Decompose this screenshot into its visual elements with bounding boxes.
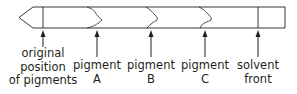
label-solvent-front-line1: solvent	[237, 59, 279, 73]
arrow-origin	[41, 30, 46, 47]
pigment-a-band	[87, 7, 102, 28]
label-pigment-b-line2: B	[127, 73, 175, 87]
label-pigment-c-line2: C	[181, 73, 229, 87]
label-origin-line1: original	[9, 47, 78, 61]
label-pigment-b-line1: pigment	[127, 59, 175, 73]
label-pigment-a-line2: A	[73, 73, 121, 87]
label-pigment-c: pigment C	[181, 59, 229, 86]
label-solvent-front-line2: front	[237, 73, 279, 87]
label-origin: original position of pigments	[9, 47, 78, 88]
label-pigment-a-line1: pigment	[73, 59, 121, 73]
paper-strip	[19, 7, 285, 28]
label-pigment-b: pigment B	[127, 59, 175, 86]
label-pigment-c-line1: pigment	[181, 59, 229, 73]
arrow-pigment-b	[149, 30, 154, 57]
pigment-c-band	[199, 7, 211, 28]
label-pigment-a: pigment A	[73, 59, 121, 86]
label-origin-line2: position	[9, 61, 78, 75]
arrow-pigment-c	[203, 30, 208, 57]
label-solvent-front: solvent front	[237, 59, 279, 86]
pigment-b-band	[146, 7, 157, 28]
arrow-pigment-a	[95, 30, 100, 57]
arrow-solvent-front	[256, 30, 261, 57]
label-origin-line3: of pigments	[9, 74, 78, 88]
